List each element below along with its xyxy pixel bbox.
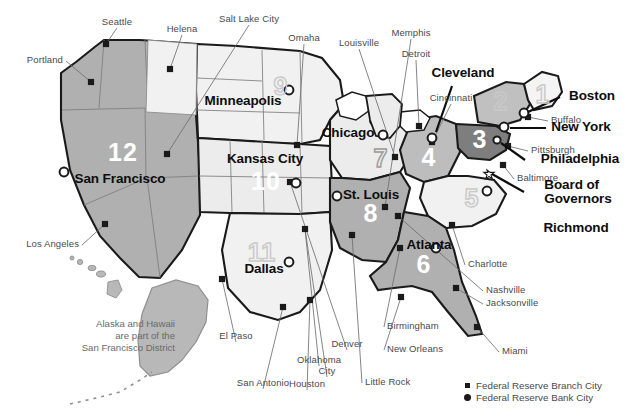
bank-marker-san-francisco [60, 168, 69, 177]
aleutian-islands [70, 372, 152, 404]
bank-marker-chicago [379, 131, 388, 140]
hawaii-region [70, 256, 122, 298]
district-11-region [222, 212, 332, 320]
branch-marker-helena [167, 66, 173, 72]
bank-marker-cleveland [428, 134, 437, 143]
square-marker-icon [461, 383, 474, 388]
mountain-light-region [146, 40, 197, 115]
branch-marker-seattle [103, 41, 109, 47]
branch-marker-nashville [395, 213, 401, 219]
bank-marker-st-louis [333, 192, 342, 201]
bank-marker-boston [520, 109, 529, 118]
map-graphic [0, 0, 628, 419]
branch-marker-salt-lake-city [164, 151, 170, 157]
legend-label-bank: Federal Reserve Bank City [474, 392, 593, 403]
bank-marker-minneapolis [285, 86, 294, 95]
map-legend: Federal Reserve Branch City Federal Rese… [461, 379, 602, 404]
bank-marker-new-york [500, 123, 509, 132]
branch-marker-charlotte [449, 222, 455, 228]
bank-marker-kansas-city [292, 179, 301, 188]
branch-marker-birmingham [397, 245, 403, 251]
leader-line-new-orleans [384, 297, 401, 350]
branch-marker-little-rock [349, 232, 355, 238]
legend-row-bank: Federal Reserve Bank City [461, 392, 602, 405]
branch-marker-san-antonio [280, 304, 286, 310]
branch-marker-memphis [382, 204, 388, 210]
legend-row-branch: Federal Reserve Branch City [461, 379, 602, 392]
branch-marker-detroit [416, 123, 422, 129]
branch-marker-louisville [392, 154, 398, 160]
alaska-region [138, 280, 208, 376]
bank-marker-richmond [483, 187, 492, 196]
leader-line-houston [307, 300, 310, 390]
district-9-region [196, 44, 344, 144]
federal-reserve-district-map: 123456789101112 PortlandSeattleHelenaSal… [0, 0, 628, 419]
branch-marker-los-angeles [102, 221, 108, 227]
circle-marker-icon [461, 394, 474, 401]
bank-marker-dallas [285, 258, 294, 267]
branch-marker-el-paso [219, 276, 225, 282]
leader-line-miami [477, 327, 499, 352]
district-regions [61, 40, 562, 404]
legend-label-branch: Federal Reserve Branch City [474, 380, 602, 391]
branch-marker-miami [474, 324, 480, 330]
branch-marker-new-orleans [398, 294, 404, 300]
bank-marker-atlanta [432, 244, 441, 253]
branch-marker-omaha [294, 142, 300, 148]
district-2-region [474, 82, 530, 126]
branch-marker-oklahoma [302, 226, 308, 232]
branch-marker-portland [88, 79, 94, 85]
bank-marker-philadelphia [493, 136, 500, 143]
branch-marker-houston [307, 297, 313, 303]
branch-marker-jacksonville [453, 285, 459, 291]
branch-marker-baltimore [500, 162, 506, 168]
